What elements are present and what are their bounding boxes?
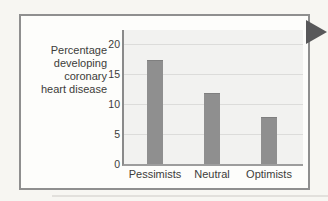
page-rule-line [52, 195, 328, 197]
y-tick-label: 5 [92, 128, 120, 140]
bar-optimists [261, 117, 277, 164]
plot-area [122, 30, 303, 166]
page-background: Percentage developing coronary heart dis… [0, 0, 328, 201]
gridline [124, 44, 303, 45]
bar-pessimists [147, 60, 163, 164]
y-tick-label: 15 [92, 68, 120, 80]
arrow-marker-icon [306, 20, 327, 44]
x-tick-label: Optimists [229, 168, 309, 180]
bar-neutral [204, 93, 220, 164]
y-tick-label: 10 [92, 98, 120, 110]
y-tick-label: 20 [92, 38, 120, 50]
